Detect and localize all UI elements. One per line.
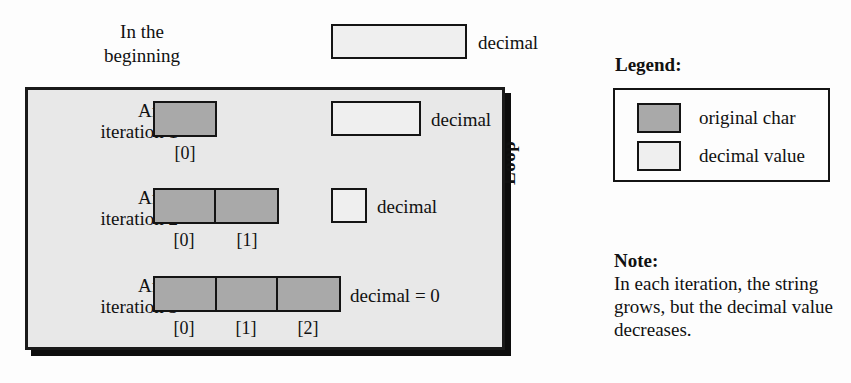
char-index-0-iteration-2: [0] (153, 231, 215, 249)
char-array-iteration-2 (153, 188, 279, 224)
char-cell-2 (278, 278, 339, 310)
char-array-iteration-3 (153, 276, 341, 312)
legend-box: original char decimal value (613, 88, 830, 182)
legend-title: Legend: (615, 54, 682, 76)
legend-entry-original-char: original char (637, 103, 796, 133)
beginning-decimal-label: decimal (478, 33, 538, 52)
loop-box: Afteriteration 1 [0] decimal Afteriterat… (25, 87, 505, 350)
original-char-swatch (637, 103, 681, 133)
char-cell-0 (155, 103, 215, 135)
char-cell-0 (155, 190, 216, 222)
char-cell-1 (216, 190, 277, 222)
decimal-box-iteration-1 (331, 101, 421, 136)
char-index-0-iteration-3: [0] (153, 319, 215, 337)
decimal-box-iteration-2 (331, 188, 367, 223)
decimal-value-swatch (637, 141, 681, 171)
beginning-decimal-box (331, 24, 467, 59)
beginning-label: In thebeginning (62, 20, 222, 68)
decimal-label-iteration-3: decimal = 0 (350, 286, 440, 305)
char-cell-0 (155, 278, 217, 310)
decimal-label-iteration-1: decimal (431, 110, 491, 129)
legend-label-decimal-value: decimal value (699, 145, 805, 167)
char-index-2-iteration-3: [2] (277, 319, 339, 337)
char-index-1-iteration-3: [1] (215, 319, 277, 337)
legend-label-original-char: original char (699, 107, 796, 129)
char-array-iteration-1 (153, 101, 217, 137)
char-index-0-iteration-1: [0] (153, 144, 217, 162)
char-index-1-iteration-2: [1] (216, 231, 278, 249)
note-title: Note: (614, 250, 658, 272)
legend-entry-decimal-value: decimal value (637, 141, 805, 171)
decimal-label-iteration-2: decimal (377, 197, 437, 216)
note-body: In each iteration, the string grows, but… (614, 272, 844, 341)
diagram-canvas: In thebeginning decimal Afteriteration 1… (0, 0, 851, 383)
char-cell-1 (217, 278, 278, 310)
